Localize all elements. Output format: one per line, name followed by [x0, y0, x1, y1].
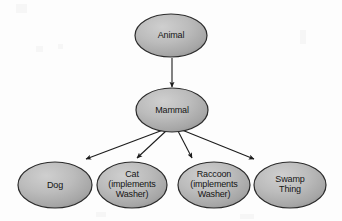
node-cat-shape: [97, 162, 167, 208]
node-cat[interactable]: Cat(implementsWasher): [97, 162, 167, 208]
node-mammal-shape: [136, 88, 208, 132]
edge-mammal-to-raccoon: [178, 131, 192, 158]
node-animal-shape: [135, 14, 207, 57]
edge-mammal-to-cat: [137, 131, 166, 158]
node-swamp-thing-shape: [254, 162, 326, 208]
inheritance-diagram: Animal Mammal Dog Cat(implementsWasher) …: [0, 0, 342, 221]
node-mammal[interactable]: Mammal: [136, 88, 208, 132]
diagram-canvas: Animal Mammal Dog Cat(implementsWasher) …: [0, 0, 342, 221]
node-layer: Animal Mammal Dog Cat(implementsWasher) …: [18, 14, 326, 208]
node-swamp-thing[interactable]: SwampThing: [254, 162, 326, 208]
node-dog-shape: [18, 162, 92, 208]
node-animal[interactable]: Animal: [135, 14, 207, 57]
node-dog[interactable]: Dog: [18, 162, 92, 208]
node-raccoon-shape: [178, 162, 250, 208]
node-raccoon[interactable]: Raccoon(implementsWasher): [178, 162, 250, 208]
edge-mammal-to-swamp-thing: [182, 130, 254, 159]
